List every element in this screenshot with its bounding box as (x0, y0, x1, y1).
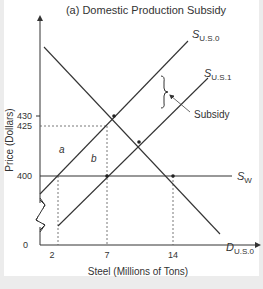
label-s-us1: SU.S.1 (204, 67, 232, 82)
area-label-b: b (91, 153, 97, 164)
area-label-a: a (59, 144, 65, 155)
label-d-us0: DU.S.0 (226, 241, 255, 256)
chart-title: (a) Domestic Production Subsidy (66, 4, 227, 16)
equilibrium-dot (105, 174, 109, 178)
x-tick-7: 7 (104, 250, 109, 260)
label-s-us0: SU.S.0 (192, 28, 220, 43)
x-axis-label: Steel (Millions of Tons) (88, 266, 188, 277)
demand-us0-line (44, 47, 220, 234)
subsidy-bracket (161, 76, 168, 108)
subsidy-label: Subsidy (194, 109, 230, 120)
x-tick-14: 14 (168, 250, 178, 260)
x-tick-2: 2 (49, 250, 54, 260)
y-tick-430: 430 (17, 111, 32, 121)
y-tick-400: 400 (17, 171, 32, 181)
chart: (a) Domestic Production Subsidy 430 425 … (0, 0, 263, 289)
y-tick-425: 425 (17, 121, 32, 131)
origin-label: 0 (23, 240, 28, 250)
equilibrium-dot (137, 140, 141, 144)
equilibrium-dot (171, 174, 175, 178)
equilibrium-dot (112, 114, 116, 118)
y-axis-label: Price (Dollars) (4, 108, 15, 171)
label-s-w: SW (237, 170, 252, 185)
